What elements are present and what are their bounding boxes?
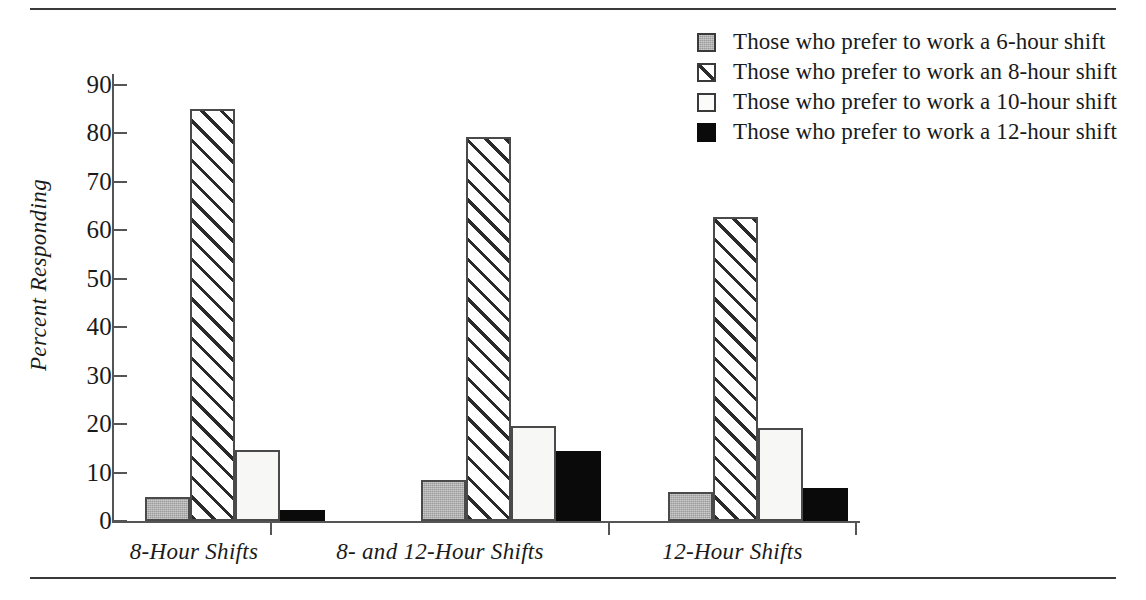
chart-legend: Those who prefer to work a 6-hour shiftT… bbox=[697, 27, 1117, 147]
legend-swatch-icon bbox=[697, 123, 716, 142]
bar bbox=[713, 217, 758, 521]
x-axis-separator-tick bbox=[270, 521, 272, 535]
x-axis-category-label: 12-Hour Shifts bbox=[610, 537, 855, 567]
legend-item-label: Those who prefer to work a 6-hour shift bbox=[733, 29, 1105, 55]
bar bbox=[668, 492, 713, 521]
bar-chart-figure: Percent Responding 0102030405060708090 8… bbox=[0, 0, 1146, 600]
bar bbox=[758, 428, 803, 521]
x-axis-separator-tick bbox=[855, 521, 857, 535]
bar bbox=[466, 137, 511, 521]
legend-item: Those who prefer to work a 10-hour shift bbox=[697, 87, 1117, 117]
x-axis-category-label: 8-Hour Shifts bbox=[118, 537, 270, 567]
bar bbox=[235, 450, 280, 521]
legend-item-label: Those who prefer to work a 10-hour shift bbox=[733, 89, 1117, 115]
x-axis-category-label: 8- and 12-Hour Shifts bbox=[272, 537, 608, 567]
legend-item-label: Those who prefer to work a 12-hour shift bbox=[733, 119, 1117, 145]
legend-swatch-icon bbox=[697, 33, 716, 52]
bar bbox=[556, 451, 601, 521]
legend-item: Those who prefer to work a 12-hour shift bbox=[697, 117, 1117, 147]
bar bbox=[421, 480, 466, 521]
legend-swatch-icon bbox=[697, 93, 716, 112]
legend-item-label: Those who prefer to work an 8-hour shift bbox=[733, 59, 1117, 85]
legend-item: Those who prefer to work an 8-hour shift bbox=[697, 57, 1117, 87]
legend-item: Those who prefer to work a 6-hour shift bbox=[697, 27, 1117, 57]
bar bbox=[803, 488, 848, 521]
bar bbox=[145, 497, 190, 521]
x-axis-separator-tick bbox=[608, 521, 610, 535]
x-axis-line bbox=[112, 521, 860, 523]
bar bbox=[190, 109, 235, 521]
legend-swatch-icon bbox=[697, 63, 716, 82]
bar bbox=[511, 426, 556, 521]
bar bbox=[280, 510, 325, 521]
